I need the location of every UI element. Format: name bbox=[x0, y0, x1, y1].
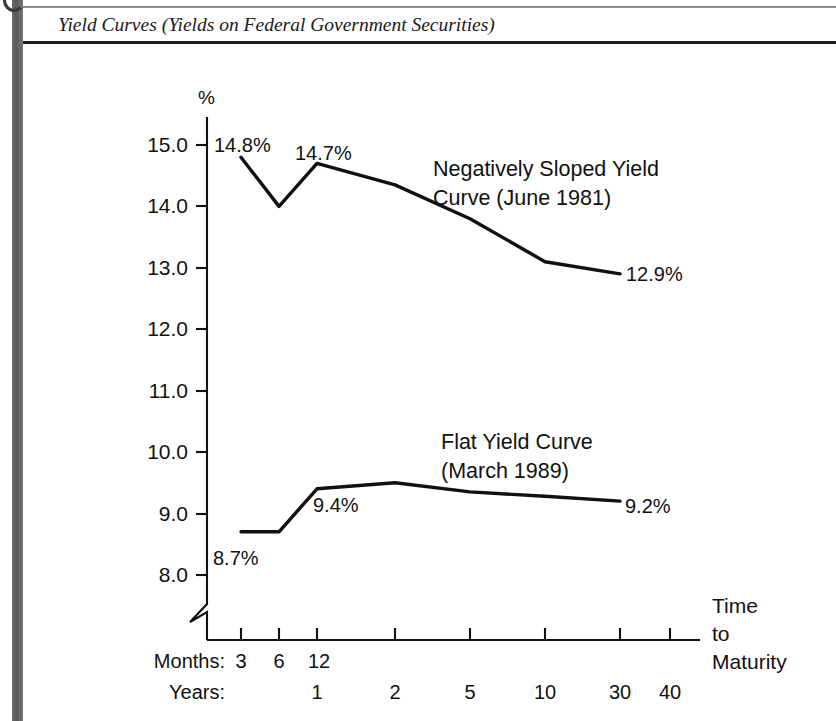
x-tick-label-year: 5 bbox=[464, 681, 475, 703]
x-axis-years-labels: 1 2 5 10 30 40 bbox=[311, 681, 681, 703]
point-label-14-7: 14.7% bbox=[295, 142, 352, 164]
y-tick-label: 13.0 bbox=[147, 256, 188, 279]
point-label-9-4: 9.4% bbox=[313, 494, 359, 516]
x-tick-label-year: 10 bbox=[534, 681, 556, 703]
series-line-march-1989 bbox=[241, 483, 620, 532]
y-tick-label: 12.0 bbox=[147, 317, 188, 340]
x-axis-ticks bbox=[241, 628, 670, 640]
series-label-june-1981-line-2: Curve (June 1981) bbox=[433, 186, 611, 210]
y-axis-tick-labels: 15.0 14.0 13.0 12.0 11.0 10.0 9.0 8.0 bbox=[147, 133, 188, 586]
point-label-8-7: 8.7% bbox=[213, 547, 259, 569]
point-label-14-8: 14.8% bbox=[214, 134, 271, 156]
y-tick-label: 10.0 bbox=[147, 440, 188, 463]
series-label-march-1989-line-2: (March 1989) bbox=[441, 459, 569, 483]
x-axis-title-line-3: Maturity bbox=[712, 650, 787, 673]
x-axis-title-line-1: Time bbox=[712, 594, 758, 617]
x-tick-label-year: 1 bbox=[311, 681, 322, 703]
x-tick-label-month: 6 bbox=[273, 650, 284, 672]
x-axis-row-label-months: Months: bbox=[154, 650, 225, 672]
x-tick-label-month: 12 bbox=[308, 650, 330, 672]
point-label-12-9: 12.9% bbox=[626, 263, 683, 285]
x-axis-title-line-2: to bbox=[712, 622, 730, 645]
series-label-june-1981-line-1: Negatively Sloped Yield bbox=[433, 157, 659, 181]
y-tick-label: 8.0 bbox=[159, 563, 188, 586]
point-label-9-2: 9.2% bbox=[625, 495, 671, 517]
y-tick-label: 9.0 bbox=[159, 502, 188, 525]
x-tick-label-month: 3 bbox=[235, 650, 246, 672]
y-tick-label: 14.0 bbox=[147, 194, 188, 217]
y-axis-unit-label: % bbox=[198, 87, 215, 108]
x-tick-label-year: 40 bbox=[659, 681, 681, 703]
x-tick-label-year: 2 bbox=[389, 681, 400, 703]
y-axis-ticks bbox=[196, 145, 207, 575]
x-tick-label-year: 30 bbox=[609, 681, 631, 703]
x-axis-row-label-years: Years: bbox=[169, 681, 225, 703]
x-axis-title: Time to Maturity bbox=[712, 594, 787, 673]
series-label-march-1989-line-1: Flat Yield Curve bbox=[441, 430, 593, 454]
y-tick-label: 15.0 bbox=[147, 133, 188, 156]
yield-curve-chart: % 15.0 14.0 13.0 12.0 11.0 10.0 9.0 8.0 bbox=[0, 0, 836, 721]
x-axis-months-labels: 3 6 12 bbox=[235, 650, 330, 672]
y-axis-break-mark bbox=[190, 592, 207, 640]
y-tick-label: 11.0 bbox=[149, 379, 188, 402]
